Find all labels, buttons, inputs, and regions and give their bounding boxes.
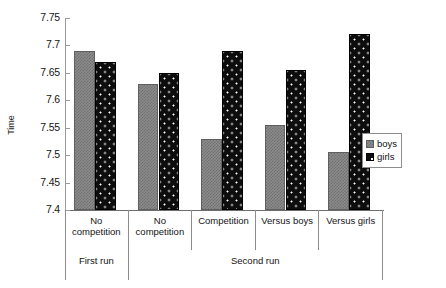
y-axis-tick-label: 7.55 [40,121,60,133]
x-axis-category-label: Versus boys [256,210,320,250]
y-axis-tick-label: 7.5 [46,148,60,160]
boys-swatch-icon [366,140,374,148]
bar-group [257,18,321,210]
bar-group [66,18,130,210]
y-axis-tick-label: 7.65 [40,66,60,78]
plot-inner: 7.47.457.57.557.67.657.77.75 [66,18,384,210]
legend-item-boys: boys [366,138,397,150]
y-axis-title: Time [6,35,16,95]
x-axis-group-label: First run [65,250,129,280]
bar-girls [222,51,243,210]
y-axis-tick-label: 7.7 [46,38,60,50]
y-axis-tick-label: 7.75 [40,11,60,23]
bar-group [320,18,384,210]
girls-swatch-icon [366,153,374,161]
bar-group [193,18,257,210]
bar-girls [349,34,370,210]
x-axis-category-label: No competition [65,210,129,250]
bar-girls [159,73,180,210]
y-axis-tick-label: 7.6 [46,93,60,105]
legend-label-boys: boys [377,139,397,149]
bar-girls [95,62,116,210]
y-axis-tick-label: 7.4 [46,203,60,215]
plot-area: 7.47.457.57.557.67.657.77.75 [65,18,384,211]
legend: boys girls [362,133,402,168]
x-axis-divider [65,250,66,280]
x-axis-category-table: No competitionNo competitionCompetitionV… [65,210,384,280]
bar-boys [328,152,349,210]
x-axis-group-label: Second run [129,250,383,280]
bar-group [130,18,194,210]
legend-label-girls: girls [377,152,394,162]
bar-girls [286,70,307,210]
x-axis-category-row: No competitionNo competitionCompetitionV… [65,210,384,250]
y-axis-title-label: Time [6,95,16,155]
bar-boys [138,84,159,210]
y-axis-tick-label: 7.45 [40,176,60,188]
x-axis-group-row: First runSecond run [65,250,384,280]
bar-boys [74,51,95,210]
x-axis-category-label: Versus girls [319,210,383,250]
bar-boys [201,139,222,210]
x-axis-divider [65,210,66,250]
legend-item-girls: girls [366,151,397,163]
bar-boys [265,125,286,210]
x-axis-category-label: No competition [129,210,193,250]
x-axis-category-label: Competition [192,210,256,250]
bar-chart: Time 7.47.457.57.557.67.657.77.75 boys g… [0,0,446,288]
